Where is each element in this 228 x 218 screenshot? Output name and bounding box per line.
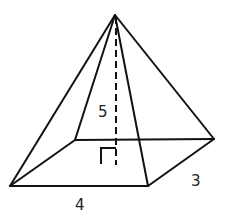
lateral-edge-back-right: [115, 15, 214, 139]
lateral-edge-back-left: [75, 15, 115, 140]
base-width-label: 3: [191, 172, 201, 190]
base-left-edge: [10, 140, 75, 186]
lateral-edge-front-right: [115, 15, 148, 186]
right-angle-marker: [101, 148, 116, 164]
height-label: 5: [98, 103, 108, 121]
lateral-edge-front-left: [10, 15, 115, 186]
pyramid-diagram: 5 4 3: [0, 0, 228, 218]
base-right-edge: [148, 139, 214, 186]
base-length-label: 4: [75, 196, 85, 214]
base-back-edge: [75, 139, 214, 140]
